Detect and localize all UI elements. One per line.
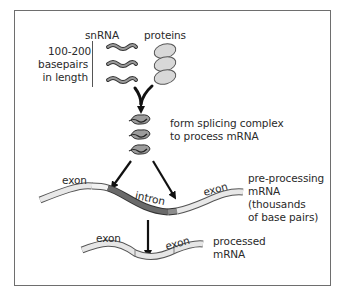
pre-mrna-label-line-4: of base pairs) (248, 211, 318, 224)
processed-label-line-1: processed (213, 235, 266, 248)
processed-label-line-2: mRNA (213, 248, 245, 261)
complex-label-line-1: form splicing complex (170, 117, 284, 130)
merge-arrow-icon (135, 86, 152, 110)
splicing-complex-icon (129, 115, 150, 154)
length-bracket (92, 41, 93, 87)
pre-mrna-label-line-1: pre-processing (248, 172, 324, 185)
snrna-label: snRNA (85, 29, 119, 42)
length-note-line-2: basepairs (36, 58, 88, 71)
exon-left-label: exon (62, 174, 87, 187)
length-note-line-3: in length (36, 71, 88, 84)
processed-exon-left-label: exon (96, 232, 121, 245)
snrna-strands-icon (108, 45, 136, 82)
proteins-icon (153, 41, 178, 86)
pre-mrna-label-line-3: (thousands (248, 198, 306, 211)
pre-mrna-label-line-2: mRNA (248, 185, 280, 198)
length-note-line-1: 100-200 (48, 45, 88, 58)
proteins-label: proteins (144, 29, 186, 42)
complex-label-line-2: to process mRNA (170, 130, 259, 143)
